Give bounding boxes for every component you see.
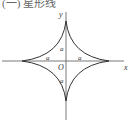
y-axis-label: y xyxy=(58,10,63,19)
segment-label-left: a xyxy=(46,54,50,62)
segment-label-bottom: a xyxy=(60,77,64,85)
x-axis-label: x xyxy=(123,63,128,72)
astroid-diagram: y x O a a a a xyxy=(0,0,133,121)
segment-label-top: a xyxy=(60,45,64,53)
origin-label: O xyxy=(58,63,64,72)
segment-label-right: a xyxy=(78,54,82,62)
